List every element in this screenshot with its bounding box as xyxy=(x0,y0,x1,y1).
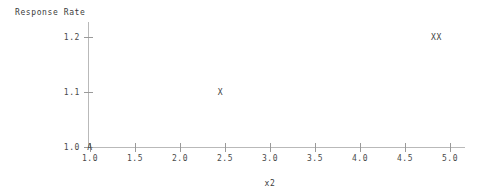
x-tick xyxy=(405,143,406,152)
x-tick-label: 5.0 xyxy=(442,154,458,163)
x-tick-label: 4.5 xyxy=(397,154,413,163)
x-tick xyxy=(225,143,226,152)
x-tick-label: 2.0 xyxy=(172,154,188,163)
x-tick xyxy=(360,143,361,152)
x-axis-line xyxy=(88,147,465,148)
y-axis-line xyxy=(88,22,89,148)
x-tick xyxy=(180,143,181,152)
data-point-marker: X xyxy=(218,88,223,97)
data-point-marker: A xyxy=(87,143,92,152)
x-tick-label: 2.5 xyxy=(217,154,233,163)
x-axis-title: x2 xyxy=(265,179,276,188)
x-tick xyxy=(450,143,451,152)
y-tick-label: 1.1 xyxy=(0,88,80,97)
scatter-plot: Response Rate 1.01.52.02.53.03.54.04.55.… xyxy=(0,0,477,195)
y-tick xyxy=(84,37,93,38)
x-tick xyxy=(135,143,136,152)
y-tick-label: 1.2 xyxy=(0,33,80,42)
x-tick xyxy=(315,143,316,152)
y-tick-label: 1.0 xyxy=(0,143,80,152)
x-tick-label: 1.5 xyxy=(127,154,143,163)
y-axis-title: Response Rate xyxy=(15,8,85,17)
y-tick xyxy=(84,92,93,93)
x-tick-label: 3.0 xyxy=(262,154,278,163)
x-tick-label: 1.0 xyxy=(82,154,98,163)
x-tick-label: 3.5 xyxy=(307,154,323,163)
x-tick-label: 4.0 xyxy=(352,154,368,163)
x-tick xyxy=(270,143,271,152)
data-point-marker: XX xyxy=(431,33,442,42)
